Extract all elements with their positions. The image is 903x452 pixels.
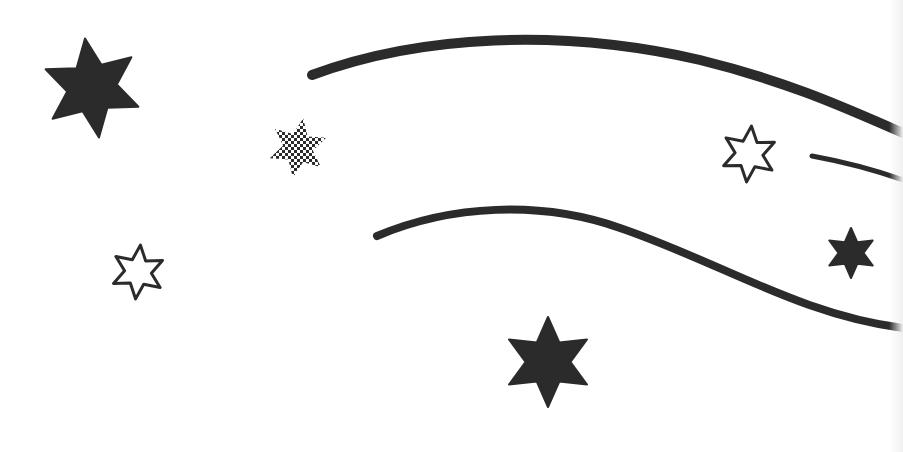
solid-star-small-right-icon — [829, 228, 872, 278]
outline-star-right-icon — [724, 126, 775, 182]
solid-star-large-top-left-icon — [46, 39, 139, 138]
checkered-star-icon — [270, 119, 326, 178]
star-group — [46, 39, 873, 408]
bottom-swoosh-icon — [377, 210, 903, 328]
swoosh-group — [312, 40, 903, 328]
shooting-stars-illustration — [0, 0, 903, 452]
outline-star-left-icon — [114, 245, 163, 299]
page-edge-shadow — [889, 0, 903, 452]
top-swoosh-icon — [312, 40, 903, 133]
solid-star-bottom-center-icon — [509, 317, 587, 407]
